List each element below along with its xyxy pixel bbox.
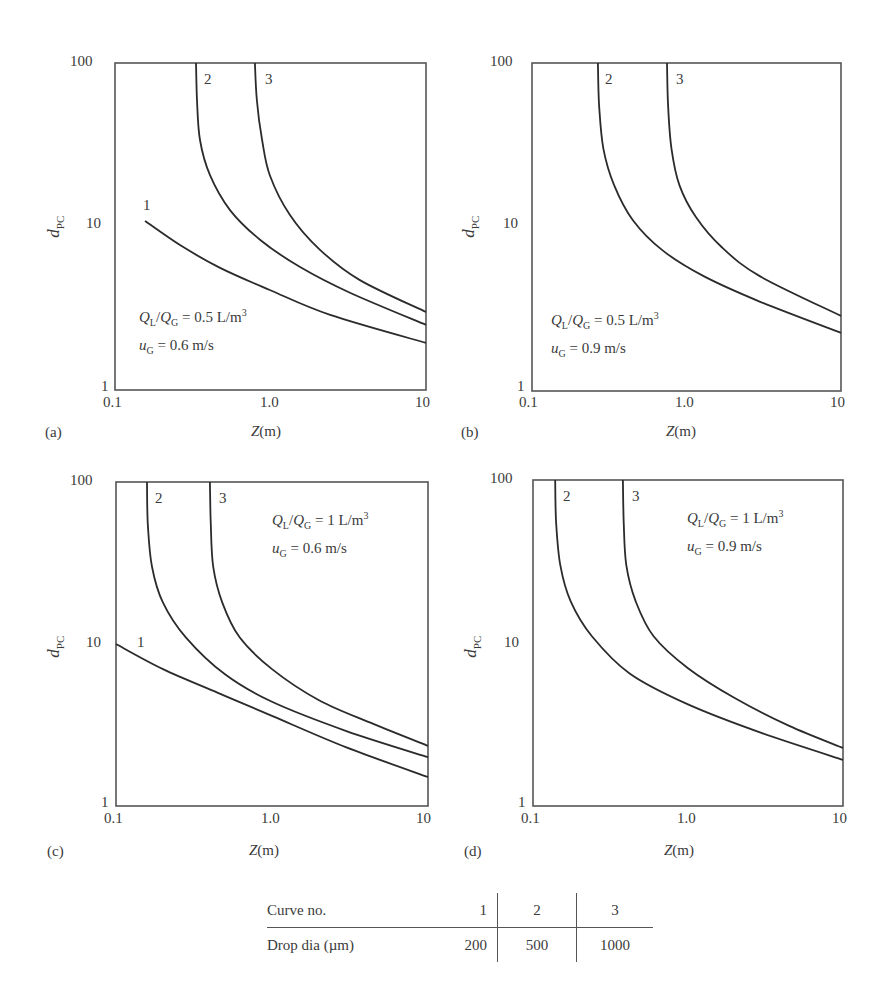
x-tick-10: 10 bbox=[416, 810, 431, 827]
legend-curve-2: 2 bbox=[498, 893, 577, 928]
legend-row-label: Drop dia (µm) bbox=[267, 928, 427, 963]
x-tick-0.1: 0.1 bbox=[103, 394, 122, 411]
y-tick-100: 100 bbox=[490, 53, 513, 70]
curve-label-2: 2 bbox=[605, 71, 613, 88]
curve-label-2: 2 bbox=[563, 488, 571, 505]
y-tick-10: 10 bbox=[503, 215, 518, 232]
curve-label-3: 3 bbox=[676, 71, 684, 88]
y-tick-10: 10 bbox=[504, 634, 519, 651]
curve-2 bbox=[598, 63, 841, 333]
panel-tag: (c) bbox=[47, 843, 64, 860]
curve-2 bbox=[196, 63, 426, 325]
curve-label-2: 2 bbox=[155, 490, 163, 507]
curve-label-1: 1 bbox=[143, 197, 151, 214]
x-tick-1.0: 1.0 bbox=[677, 810, 696, 827]
y-axis-label: dPC bbox=[461, 636, 482, 658]
condition-annotation: QL/QG = 1 L/m3 uG = 0.9 m/s bbox=[687, 503, 783, 563]
x-tick-0.1: 0.1 bbox=[521, 810, 540, 827]
condition-annotation: QL/QG = 0.5 L/m3 uG = 0.6 m/s bbox=[139, 302, 247, 362]
x-axis-label: Z(m) bbox=[664, 842, 694, 859]
y-tick-100: 100 bbox=[70, 472, 93, 489]
y-tick-1: 1 bbox=[518, 794, 526, 811]
curve-label-1: 1 bbox=[137, 634, 145, 651]
x-tick-10: 10 bbox=[830, 394, 845, 411]
legend-dia-3: 1000 bbox=[577, 928, 654, 963]
y-axis-label: dPC bbox=[459, 216, 480, 238]
y-axis-label: dPC bbox=[44, 636, 65, 658]
x-tick-10: 10 bbox=[415, 394, 430, 411]
x-tick-1.0: 1.0 bbox=[261, 810, 280, 827]
panel-tag: (b) bbox=[461, 424, 479, 441]
y-tick-1: 1 bbox=[101, 378, 109, 395]
y-tick-100: 100 bbox=[70, 53, 93, 70]
legend-value-row: Drop dia (µm) 200 500 1000 bbox=[267, 928, 653, 963]
x-tick-1.0: 1.0 bbox=[675, 394, 694, 411]
curve-label-3: 3 bbox=[219, 490, 227, 507]
y-tick-10: 10 bbox=[86, 215, 101, 232]
curve-legend-table: Curve no. 1 2 3 Drop dia (µm) 200 500 10… bbox=[267, 893, 653, 962]
y-tick-1: 1 bbox=[517, 378, 525, 395]
x-tick-0.1: 0.1 bbox=[104, 810, 123, 827]
x-axis-label: Z(m) bbox=[666, 423, 696, 440]
legend-dia-2: 500 bbox=[498, 928, 577, 963]
legend-curve-1: 1 bbox=[427, 893, 498, 928]
panel-tag: (a) bbox=[45, 424, 62, 441]
y-tick-10: 10 bbox=[86, 634, 101, 651]
curve-3 bbox=[667, 63, 841, 316]
x-axis-label: Z(m) bbox=[249, 842, 279, 859]
curve-label-3: 3 bbox=[265, 71, 273, 88]
curve-label-2: 2 bbox=[204, 71, 212, 88]
curve-3 bbox=[255, 63, 426, 312]
curve-label-3: 3 bbox=[632, 488, 640, 505]
legend-curve-3: 3 bbox=[577, 893, 654, 928]
y-axis-label: dPC bbox=[44, 216, 65, 238]
condition-annotation: QL/QG = 0.5 L/m3 uG = 0.9 m/s bbox=[551, 305, 659, 365]
panel-tag: (d) bbox=[464, 843, 482, 860]
x-axis-label: Z(m) bbox=[251, 423, 281, 440]
x-tick-10: 10 bbox=[832, 810, 847, 827]
legend-header-label: Curve no. bbox=[267, 893, 427, 928]
y-tick-1: 1 bbox=[101, 794, 109, 811]
x-tick-1.0: 1.0 bbox=[260, 394, 279, 411]
curve-1 bbox=[116, 644, 428, 777]
legend-header-row: Curve no. 1 2 3 bbox=[267, 893, 653, 928]
x-tick-0.1: 0.1 bbox=[519, 394, 538, 411]
condition-annotation: QL/QG = 1 L/m3 uG = 0.6 m/s bbox=[272, 505, 368, 565]
legend-dia-1: 200 bbox=[427, 928, 498, 963]
y-tick-100: 100 bbox=[490, 470, 513, 487]
